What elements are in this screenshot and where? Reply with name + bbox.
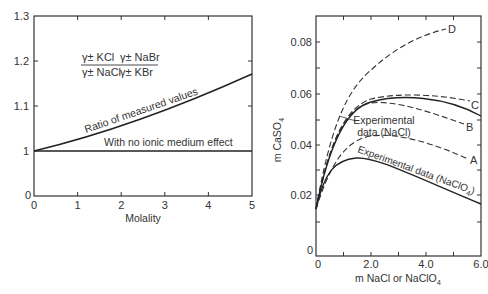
ytick-0.04: 0.04 xyxy=(291,139,312,151)
denominator-kbr: γ± KBr xyxy=(120,66,153,78)
figure: 1.3 1.2 1.1 1 0 0 1 2 3 4 5 Molality γ± … xyxy=(0,0,488,294)
xtick-2: 2 xyxy=(118,199,124,211)
left-x-tick-labels: 0 1 2 3 4 5 xyxy=(31,199,255,211)
label-c: C xyxy=(471,99,479,111)
ytick-1.1: 1.1 xyxy=(14,100,29,112)
label-d: D xyxy=(448,23,456,35)
xtick-2.0: 2.0 xyxy=(363,258,378,270)
left-y-tick-labels: 1.3 1.2 1.1 1 0 xyxy=(14,10,31,201)
ytick-1.3: 1.3 xyxy=(14,10,29,22)
right-bottom-ticks xyxy=(344,252,454,256)
curve-c xyxy=(316,95,470,209)
exp-nacl-label-line1: Experimental xyxy=(353,114,414,126)
ytick-0.02: 0.02 xyxy=(291,189,312,201)
denominator-nacl: γ± NaCl xyxy=(82,66,121,78)
xtick-4.0: 4.0 xyxy=(418,258,433,270)
ytick-1.2: 1.2 xyxy=(14,55,29,67)
ytick-1: 1 xyxy=(23,145,29,157)
right-x-axis-label: m NaCl or NaClO4 xyxy=(355,272,441,287)
xtick-1: 1 xyxy=(75,199,81,211)
left-x-axis-label: Molality xyxy=(125,212,161,224)
curve-a xyxy=(316,135,468,209)
ytick-0.08: 0.08 xyxy=(291,36,312,48)
numerator-kcl: γ± KCl xyxy=(82,51,114,63)
no-effect-label: With no ionic medium effect xyxy=(104,136,233,148)
right-x-tick-labels: 0 2.0 4.0 6.0 xyxy=(315,258,488,270)
left-chart: 1.3 1.2 1.1 1 0 0 1 2 3 4 5 Molality γ± … xyxy=(14,10,255,224)
ratio-measured-label: Ratio of measured values xyxy=(83,85,199,135)
right-chart: 0.08 0.06 0.04 0.02 0 0 2.0 4.0 6.0 m Na… xyxy=(271,16,488,287)
xtick-5: 5 xyxy=(249,199,255,211)
ytick-0: 0 xyxy=(307,244,313,256)
ytick-0.06: 0.06 xyxy=(291,88,312,100)
left-bottom-ticks xyxy=(78,192,209,196)
gamma-ratio-formula: γ± KCl γ± NaBr γ± NaCl γ± KBr xyxy=(81,51,160,78)
curve-letter-labels: D C B A xyxy=(448,23,479,166)
label-b: B xyxy=(466,121,473,133)
xtick-0: 0 xyxy=(31,199,37,211)
numerator-nabr: γ± NaBr xyxy=(120,51,160,63)
xtick-0: 0 xyxy=(315,258,321,270)
exp-naclo4-label: Experimental data (NaClO4) xyxy=(356,144,477,199)
exp-nacl-label-line2: data (NaCl) xyxy=(357,126,411,138)
right-y-axis-label: m CaSO4 xyxy=(271,118,286,162)
xtick-3: 3 xyxy=(162,199,168,211)
xtick-4: 4 xyxy=(205,199,211,211)
xtick-6.0: 6.0 xyxy=(473,258,488,270)
right-y-tick-labels: 0.08 0.06 0.04 0.02 0 xyxy=(291,36,313,256)
label-a: A xyxy=(470,154,478,166)
